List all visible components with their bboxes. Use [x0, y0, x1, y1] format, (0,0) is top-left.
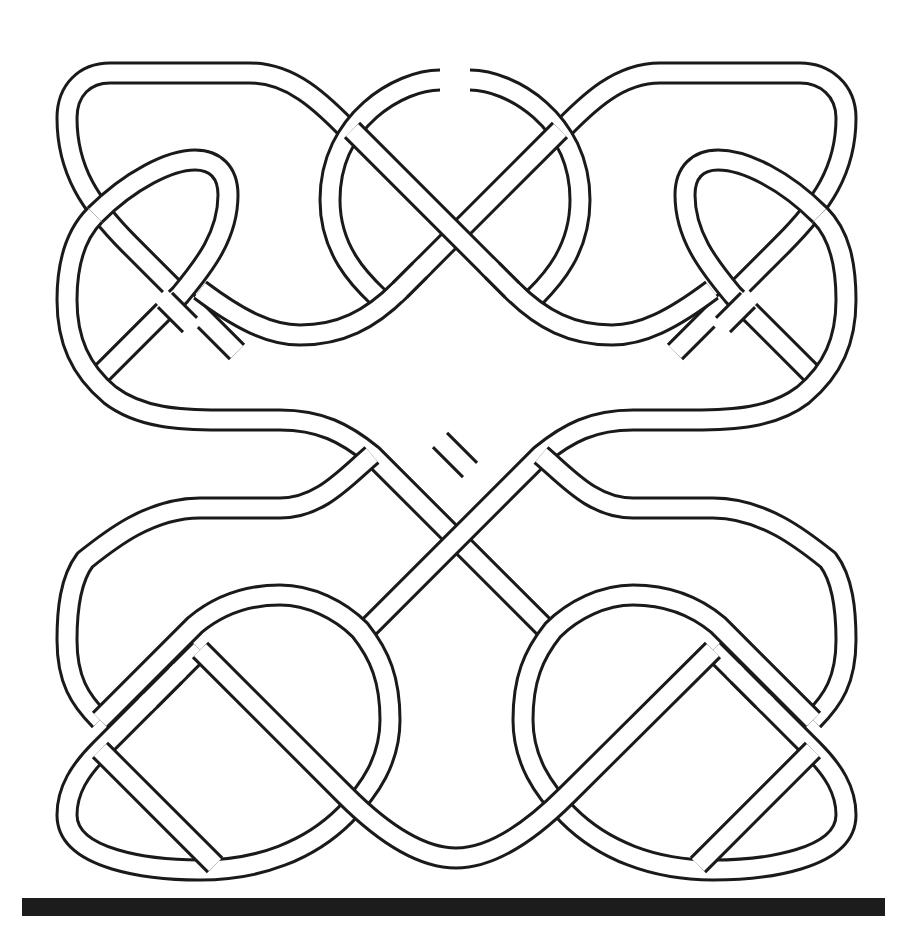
band-center-diagonal-2	[487, 265, 517, 295]
baseline-bar	[22, 898, 885, 916]
band-center-diagonal-1	[395, 265, 425, 295]
band-bottom-center	[200, 650, 713, 858]
band-center-cross-mid	[436, 436, 474, 474]
band-left-edge-upper	[67, 215, 552, 635]
band-lower-center-arch-right	[523, 595, 846, 870]
band-lower-center-arch-left	[67, 595, 390, 870]
celtic-knot-artwork	[0, 0, 922, 949]
knot-bands	[67, 73, 846, 870]
band-right-edge-upper	[361, 215, 846, 635]
